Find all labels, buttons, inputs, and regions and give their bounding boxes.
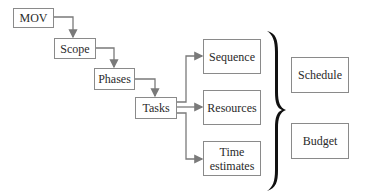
- sequence-label: Sequence: [209, 50, 255, 64]
- curly-brace: [267, 31, 286, 191]
- arrow-mov-to-scope: [54, 17, 73, 37]
- tasks-box: Tasks: [135, 97, 177, 119]
- scope-box: Scope: [54, 38, 96, 59]
- sequence-box: Sequence: [203, 39, 261, 74]
- budget-label: Budget: [303, 134, 338, 148]
- arrow-scope-to-phases: [96, 48, 114, 67]
- schedule-box: Schedule: [291, 57, 349, 93]
- phases-box: Phases: [94, 68, 135, 90]
- arrow-tasks-to-time-estimates: [177, 113, 202, 159]
- schedule-label: Schedule: [298, 68, 342, 82]
- mov-label: MOV: [19, 11, 47, 25]
- time-estimates-box: Time estimates: [203, 141, 261, 176]
- mov-box: MOV: [13, 8, 54, 28]
- scope-label: Scope: [60, 42, 89, 56]
- arrow-tasks-to-sequence: [177, 56, 202, 102]
- time-estimates-label-line2: estimates: [210, 159, 255, 173]
- arrow-phases-to-tasks: [135, 79, 155, 96]
- resources-box: Resources: [203, 90, 261, 125]
- phases-label: Phases: [98, 72, 131, 86]
- time-estimates-label-line1: Time: [220, 145, 245, 159]
- tasks-label: Tasks: [142, 101, 169, 115]
- connector-arrows: [0, 0, 376, 195]
- budget-box: Budget: [291, 123, 349, 159]
- resources-label: Resources: [207, 101, 256, 115]
